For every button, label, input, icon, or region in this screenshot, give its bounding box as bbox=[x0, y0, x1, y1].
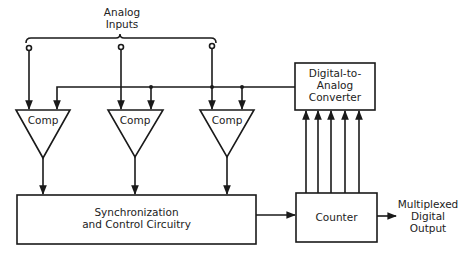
dac-label: Digital-to- Analog Converter bbox=[295, 67, 375, 103]
reference-bus bbox=[57, 87, 295, 109]
dac-line3: Converter bbox=[295, 91, 375, 103]
output-line2: Digital bbox=[396, 210, 460, 222]
counter-label: Counter bbox=[296, 211, 377, 223]
analog-inputs-line1: Analog bbox=[100, 6, 144, 18]
output-line1: Multiplexed bbox=[396, 198, 460, 210]
comparator-1-label: Comp bbox=[20, 114, 66, 126]
output-label: Multiplexed Digital Output bbox=[396, 198, 460, 234]
input-terminal-1 bbox=[27, 46, 32, 51]
input-brace bbox=[26, 34, 216, 43]
comparator-2-label: Comp bbox=[112, 114, 158, 126]
dac-line1: Digital-to- bbox=[295, 67, 375, 79]
comparator-3-label: Comp bbox=[204, 114, 250, 126]
sync-line1: Synchronization bbox=[17, 206, 256, 218]
analog-inputs-line2: Inputs bbox=[100, 18, 144, 30]
output-line3: Output bbox=[396, 222, 460, 234]
analog-inputs-label: Analog Inputs bbox=[100, 6, 144, 30]
sync-label: Synchronization and Control Circuitry bbox=[17, 206, 256, 230]
input-terminal-3 bbox=[210, 44, 215, 49]
dac-line2: Analog bbox=[295, 79, 375, 91]
input-terminal-2 bbox=[119, 45, 124, 50]
sync-line2: and Control Circuitry bbox=[17, 218, 256, 230]
